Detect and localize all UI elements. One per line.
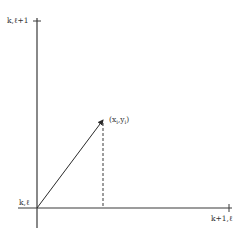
vector-arrow <box>37 120 103 208</box>
label-origin: k,ℓ <box>19 198 30 207</box>
coordinate-diagram: k,ℓ+1 k,ℓ k+1,ℓ (xi,yi) <box>0 0 244 236</box>
label-point: (xi,yi) <box>109 115 129 125</box>
label-bottom-right: k+1,ℓ <box>211 214 233 223</box>
label-top-left: k,ℓ+1 <box>7 16 29 25</box>
